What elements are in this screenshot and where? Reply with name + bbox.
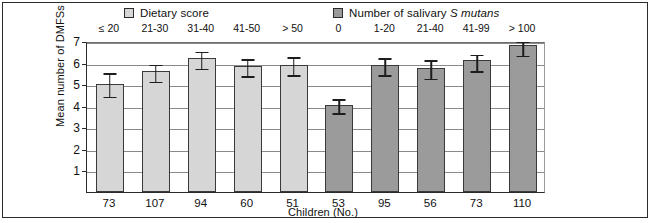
error-bar-cap-lower xyxy=(379,75,392,77)
bar xyxy=(188,58,216,192)
bar xyxy=(96,84,124,192)
bar-group xyxy=(87,43,544,192)
y-tick-label: 3 xyxy=(64,123,80,133)
bar xyxy=(325,105,353,192)
error-bar-cap-upper xyxy=(103,73,116,75)
error-bar xyxy=(293,57,295,75)
error-bar-cap-lower xyxy=(471,71,484,73)
bar xyxy=(142,71,170,192)
error-bar xyxy=(385,58,387,75)
error-bar-cap-upper xyxy=(517,42,530,44)
error-bar-cap-lower xyxy=(195,69,208,71)
error-bar-cap-lower xyxy=(149,82,162,84)
error-bar-cap-upper xyxy=(379,58,392,60)
error-bar-cap-upper xyxy=(471,55,484,57)
error-bar xyxy=(476,55,478,71)
y-tick-label: 6 xyxy=(64,59,80,69)
error-bar xyxy=(431,60,433,78)
error-bar-cap-upper xyxy=(333,99,346,101)
error-bar-cap-lower xyxy=(333,113,346,115)
error-bar-cap-lower xyxy=(241,76,254,78)
error-bar xyxy=(109,73,111,97)
y-tick-label: 2 xyxy=(64,145,80,155)
error-bar xyxy=(522,42,524,56)
plot-wrapper: Mean number of DMFSs 1234567 73107946051… xyxy=(0,0,646,216)
y-tick-label: 7 xyxy=(64,37,80,47)
error-bar-cap-upper xyxy=(149,65,162,67)
bar xyxy=(234,66,262,192)
bar xyxy=(417,68,445,192)
error-bar-cap-lower xyxy=(103,97,116,99)
x-axis-label: Children (No.) xyxy=(0,206,646,218)
error-bar-cap-upper xyxy=(287,57,300,59)
error-bar xyxy=(247,59,249,76)
y-tick-label: 4 xyxy=(64,102,80,112)
error-bar-cap-upper xyxy=(195,52,208,54)
error-bar-cap-lower xyxy=(287,75,300,77)
error-bar xyxy=(201,52,203,69)
figure-container: Dietary score ≤ 2021-3031-4041-50> 50 Nu… xyxy=(0,0,653,223)
error-bar xyxy=(155,65,157,82)
bar xyxy=(280,65,308,192)
y-tick-label: 5 xyxy=(64,80,80,90)
error-bar-cap-lower xyxy=(425,79,438,81)
error-bar xyxy=(339,99,341,113)
bar xyxy=(371,65,399,192)
error-bar-cap-lower xyxy=(517,56,530,58)
error-bar-cap-upper xyxy=(425,60,438,62)
bar xyxy=(463,60,491,192)
y-tick-label: 1 xyxy=(64,166,80,176)
plot-area xyxy=(86,42,545,193)
bar xyxy=(509,45,537,192)
error-bar-cap-upper xyxy=(241,59,254,61)
